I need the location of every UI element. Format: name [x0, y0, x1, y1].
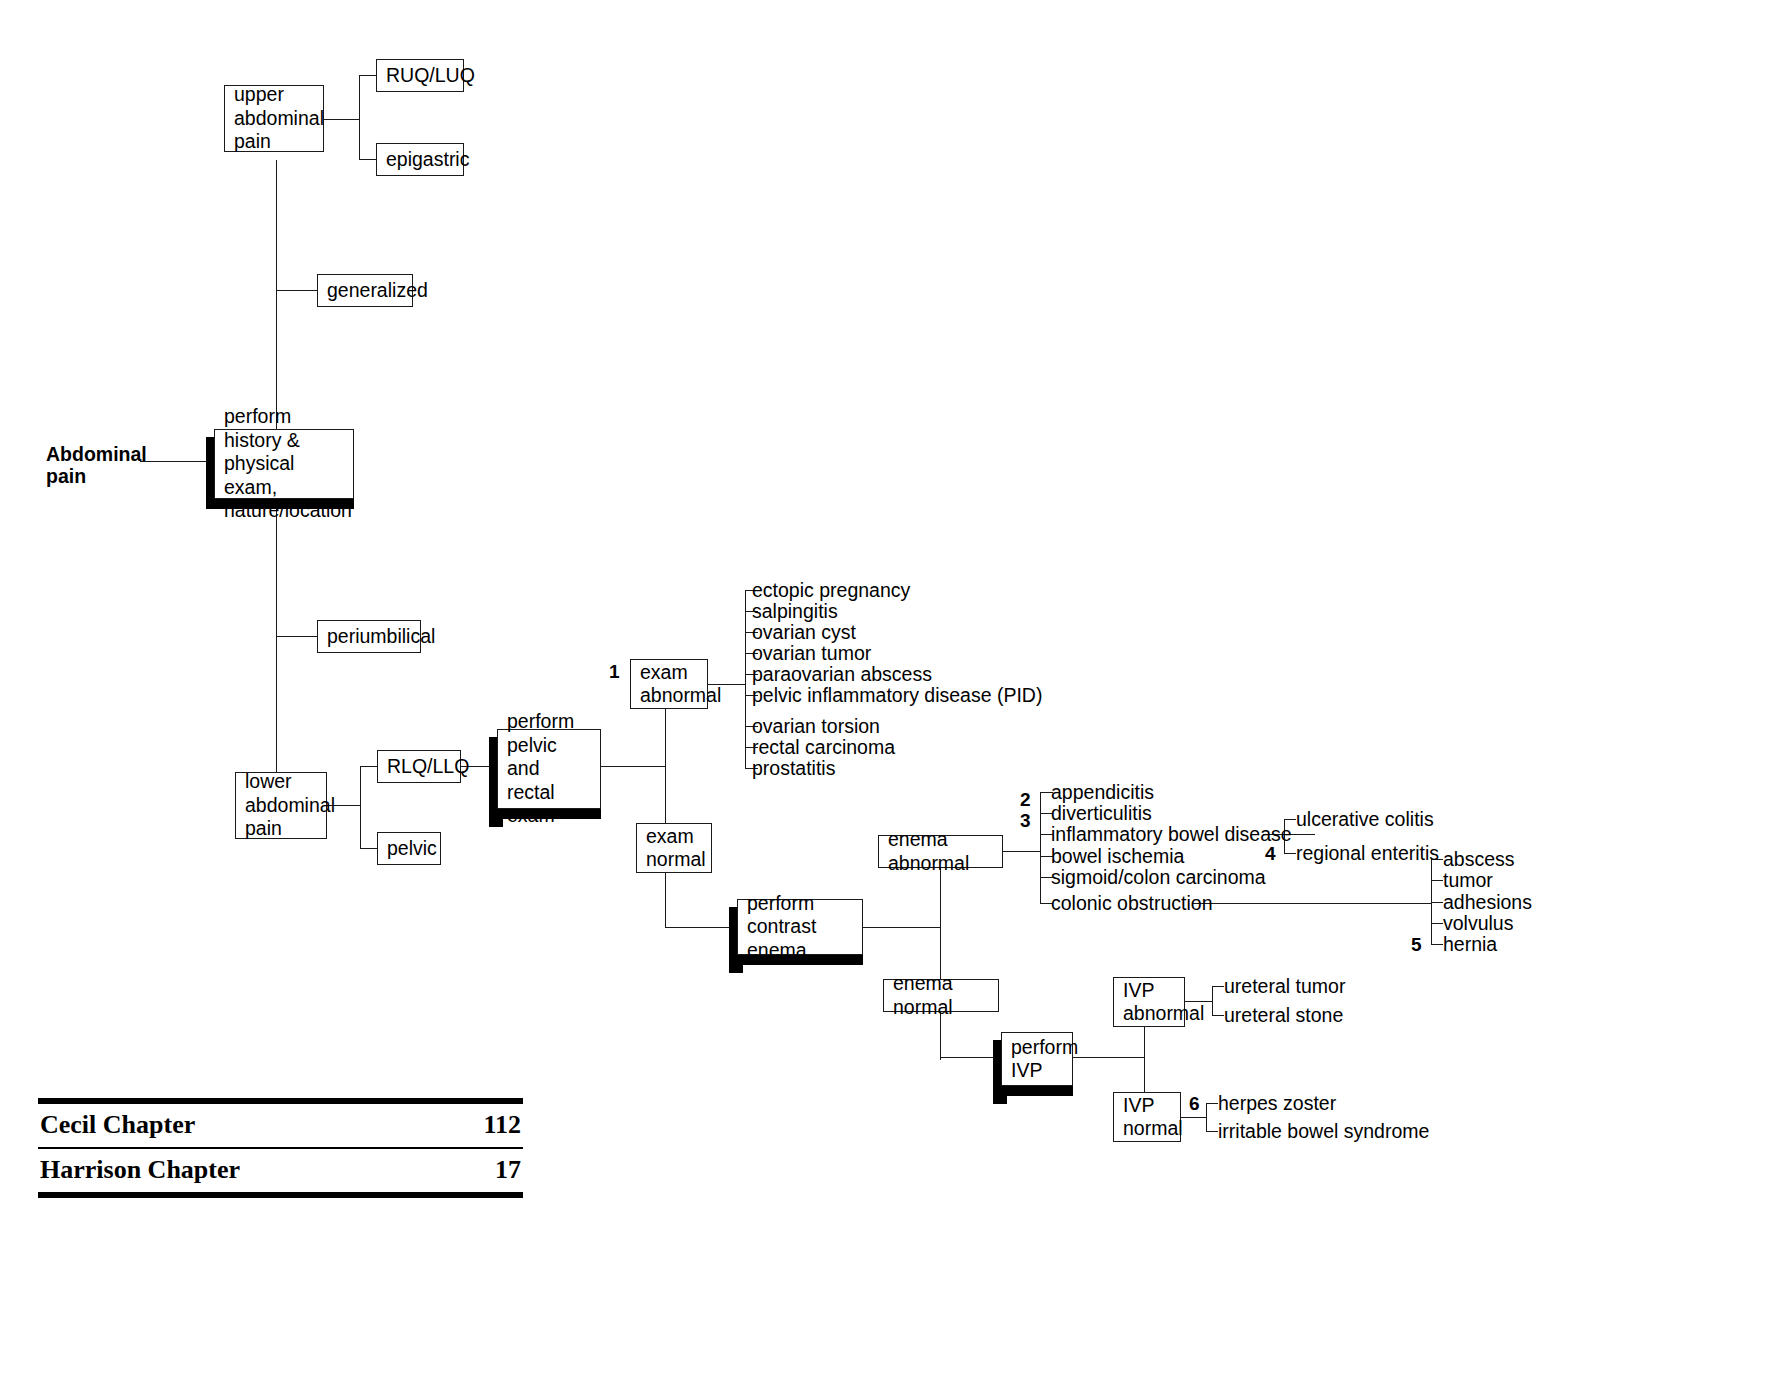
connector-pelvic: [360, 848, 378, 849]
leaf-sigmoid-colon-carcinoma: sigmoid/colon carcinoma: [1051, 867, 1266, 888]
footer-label-cecil: Cecil Chapter: [40, 1110, 195, 1140]
leaf-inflammatory-bowel-disease: inflammatory bowel disease: [1051, 824, 1292, 845]
leaf-abscess: abscess: [1443, 849, 1515, 870]
node-perform-pelvic-rectal-exam[interactable]: perform pelvic and rectal exam: [489, 729, 601, 822]
node-label: IVP normal: [1123, 1094, 1183, 1141]
node-label: perform history & physical exam, nature/…: [224, 405, 352, 523]
bus-enema-abnormal-diagnoses: [1040, 792, 1041, 904]
connector-pelvic-exam-out: [601, 766, 666, 767]
leaf-diverticulitis: diverticulitis: [1051, 803, 1152, 824]
connector-periumbilical: [276, 636, 318, 637]
leaf-ovarian-torsion: ovarian torsion: [752, 716, 880, 737]
footer-value-harrison: 17: [495, 1155, 521, 1185]
node-label: pelvic: [387, 837, 437, 861]
leaf-ureteral-tumor: ureteral tumor: [1224, 976, 1345, 997]
node-perform-history[interactable]: perform history & physical exam, nature/…: [206, 429, 354, 504]
footer-row-harrison: Harrison Chapter 17: [38, 1149, 523, 1192]
leaf-ectopic-pregnancy: ectopic pregnancy: [752, 580, 910, 601]
stub-herpes-zoster: [1206, 1103, 1218, 1104]
leaf-volvulus: volvulus: [1443, 913, 1513, 934]
stub-ulcerative-colitis: [1284, 819, 1296, 820]
connector-obstruction-out: [1192, 903, 1432, 904]
leaf-prostatitis: prostatitis: [752, 758, 835, 779]
bus-exam-abnormal-diagnoses: [745, 590, 746, 768]
node-pelvic[interactable]: pelvic: [377, 832, 441, 865]
leaf-irritable-bowel-syndrome: irritable bowel syndrome: [1218, 1121, 1429, 1142]
node-generalized[interactable]: generalized: [317, 274, 413, 307]
connector-exam-abnormal-down: [665, 709, 666, 823]
connector-lower-bus: [360, 766, 361, 849]
connector-generalized: [276, 290, 318, 291]
node-label: RLQ/LLQ: [387, 755, 469, 779]
node-label: generalized: [327, 279, 428, 303]
connector-exam-normal-to-enema: [665, 927, 731, 928]
connector-enema-out: [863, 927, 941, 928]
trunk-lower: [276, 500, 277, 790]
node-epigastric[interactable]: epigastric: [376, 143, 464, 176]
reference-number-6: 6: [1189, 1093, 1200, 1115]
footer-label-harrison: Harrison Chapter: [40, 1155, 240, 1185]
root-label: Abdominal pain: [46, 443, 147, 487]
connector-ivp-normal-out: [1181, 1117, 1207, 1118]
leaf-herpes-zoster: herpes zoster: [1218, 1093, 1336, 1114]
node-perform-ivp[interactable]: perform IVP: [993, 1032, 1073, 1100]
node-label: enema normal: [893, 972, 989, 1019]
node-ivp-abnormal[interactable]: IVP abnormal: [1113, 977, 1185, 1027]
leaf-adhesions: adhesions: [1443, 892, 1532, 913]
connector-epigastric: [359, 159, 377, 160]
connector-upper-bus: [359, 75, 360, 160]
node-enema-normal[interactable]: enema normal: [883, 979, 999, 1012]
connector-ruq: [359, 75, 377, 76]
leaf-rectal-carcinoma: rectal carcinoma: [752, 737, 895, 758]
node-rlq-llq[interactable]: RLQ/LLQ: [377, 750, 461, 783]
node-label: perform contrast enema: [747, 892, 853, 963]
node-lower-abdominal-pain[interactable]: lower abdominal pain: [235, 772, 327, 839]
node-perform-contrast-enema[interactable]: perform contrast enema: [729, 899, 863, 969]
node-periumbilical[interactable]: periumbilical: [317, 620, 421, 653]
connector-rlq: [360, 766, 378, 767]
reference-number-2: 2: [1020, 789, 1031, 811]
node-exam-abnormal[interactable]: exam abnormal: [630, 659, 708, 709]
leaf-regional-enteritis: regional enteritis: [1296, 843, 1439, 864]
node-ivp-normal[interactable]: IVP normal: [1113, 1092, 1181, 1142]
node-label: perform IVP: [1011, 1036, 1078, 1083]
node-label: exam normal: [646, 825, 706, 872]
leaf-ulcerative-colitis: ulcerative colitis: [1296, 809, 1434, 830]
reference-number-5: 5: [1411, 934, 1422, 956]
leaf-bowel-ischemia: bowel ischemia: [1051, 846, 1184, 867]
leaf-appendicitis: appendicitis: [1051, 782, 1154, 803]
reference-number-3: 3: [1020, 810, 1031, 832]
leaf-ovarian-tumor: ovarian tumor: [752, 643, 871, 664]
stub-ureteral-tumor: [1212, 986, 1224, 987]
stub-irritable-bowel-syndrome: [1206, 1131, 1218, 1132]
leaf-hernia: hernia: [1443, 934, 1497, 955]
connector-root-to-history: [140, 461, 208, 462]
node-label: IVP abnormal: [1123, 979, 1204, 1026]
node-upper-abdominal-pain[interactable]: upper abdominal pain: [224, 85, 324, 152]
footer-value-cecil: 112: [483, 1110, 521, 1140]
connector-ivp-out: [1073, 1057, 1145, 1058]
stub-ureteral-stone: [1212, 1015, 1224, 1016]
connector-exam-normal-down: [665, 873, 666, 928]
bus-ivp-normal: [1206, 1103, 1207, 1132]
node-label: upper abdominal pain: [234, 83, 324, 154]
bus-ivp-abnormal: [1212, 986, 1213, 1016]
node-enema-abnormal[interactable]: enema abnormal: [878, 835, 1003, 868]
connector-upper-stub: [324, 119, 360, 120]
reference-number-1: 1: [609, 661, 620, 683]
leaf-ovarian-cyst: ovarian cyst: [752, 622, 856, 643]
chapter-reference-table: Cecil Chapter 112 Harrison Chapter 17: [38, 1098, 523, 1198]
connector-enema-abnormal-out: [1003, 851, 1041, 852]
node-label: exam abnormal: [640, 661, 721, 708]
leaf-ureteral-stone: ureteral stone: [1224, 1005, 1343, 1026]
leaf-colonic-obstruction: colonic obstruction: [1051, 893, 1213, 914]
footer-rule-bottom: [38, 1192, 523, 1198]
node-label: epigastric: [386, 148, 469, 172]
footer-row-cecil: Cecil Chapter 112: [38, 1104, 523, 1147]
node-label: perform pelvic and rectal exam: [507, 710, 591, 828]
leaf-tumor: tumor: [1443, 870, 1493, 891]
node-label: enema abnormal: [888, 828, 993, 875]
node-exam-normal[interactable]: exam normal: [636, 823, 712, 873]
node-ruq-luq[interactable]: RUQ/LUQ: [376, 59, 464, 92]
leaf-pid: pelvic inflammatory disease (PID): [752, 685, 1042, 706]
